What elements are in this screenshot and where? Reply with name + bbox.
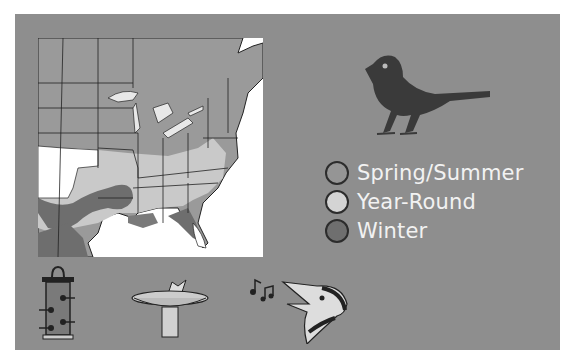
season-legend: Spring/Summer Year-Round Winter: [325, 158, 524, 245]
year-round-swatch-icon: [325, 190, 349, 214]
songbird-silhouette-icon: [355, 49, 495, 139]
birdbath-icon: [130, 274, 210, 344]
us-east-map-graphic: [38, 38, 263, 257]
tube-feeder-icon: [38, 265, 78, 345]
winter-swatch-icon: [325, 219, 349, 243]
legend-label: Winter: [357, 219, 427, 243]
legend-label: Spring/Summer: [357, 161, 524, 185]
spring-summer-swatch-icon: [325, 161, 349, 185]
singing-bird-icon: [247, 274, 357, 344]
legend-label: Year-Round: [357, 190, 476, 214]
range-map-panel: Spring/Summer Year-Round Winter: [15, 14, 560, 350]
legend-item-spring-summer: Spring/Summer: [325, 158, 524, 187]
legend-item-year-round: Year-Round: [325, 187, 524, 216]
music-notes-icon: [250, 280, 274, 302]
legend-item-winter: Winter: [325, 216, 524, 245]
range-map: [38, 38, 263, 257]
